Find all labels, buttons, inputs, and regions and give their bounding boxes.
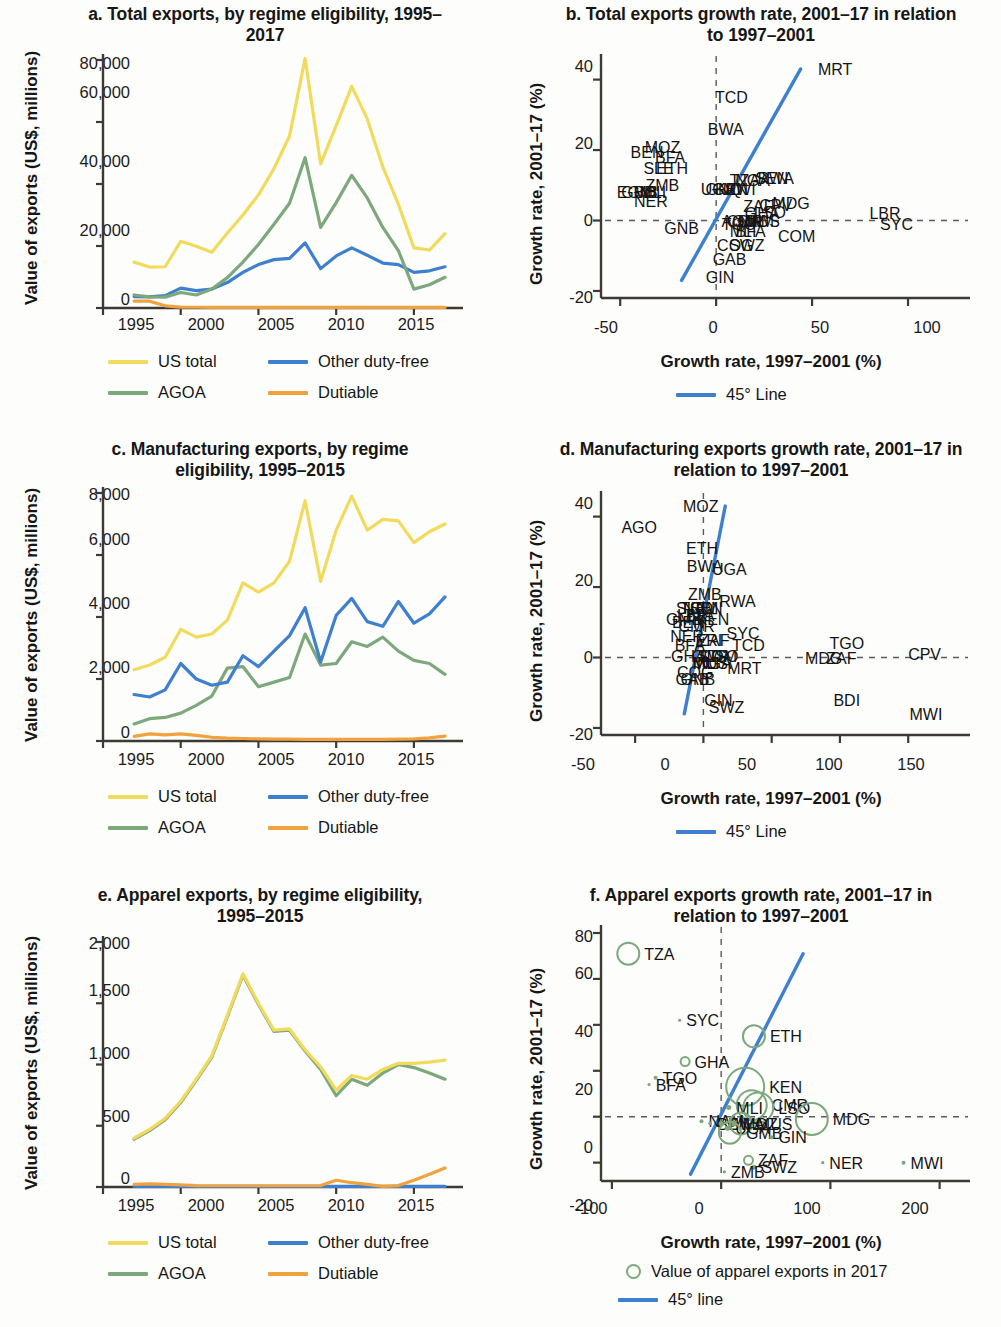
scatter-point-label: BFA bbox=[656, 1077, 687, 1094]
series-line bbox=[134, 158, 445, 298]
scatter-point-label: NER bbox=[634, 193, 668, 210]
bubble-marker bbox=[681, 1057, 690, 1066]
scatter-point-label: COM bbox=[778, 228, 815, 245]
legend-item-agoa: AGOA bbox=[108, 383, 268, 402]
legend-item-45-line-f: 45° line bbox=[618, 1290, 887, 1309]
bubble-marker bbox=[902, 1161, 906, 1165]
agoa-swatch bbox=[108, 391, 148, 395]
scatter-point-label: SYC bbox=[686, 1012, 719, 1029]
panel-b: b. Total exports growth rate, 2001–17 in… bbox=[501, 0, 1001, 430]
panel-a-legend: US total Other duty-free AGOA Dutiable bbox=[108, 352, 429, 402]
scatter-point-label: AGO bbox=[621, 519, 657, 536]
scatter-point-label: ZMB bbox=[731, 1164, 765, 1181]
scatter-point-label: UGA bbox=[712, 561, 747, 578]
scatter-point-label: ETH bbox=[770, 1028, 802, 1045]
panel-e-plot bbox=[0, 885, 500, 1215]
bubble-marker bbox=[726, 1105, 731, 1110]
legend-item-us-total-e: US total bbox=[108, 1233, 268, 1252]
bubble-marker bbox=[708, 1122, 712, 1126]
us-total-swatch bbox=[108, 360, 148, 364]
scatter-point-label: ZAF bbox=[826, 650, 856, 667]
series-line bbox=[134, 496, 445, 670]
dutiable-swatch bbox=[268, 391, 308, 395]
legend-item-other-duty-free-e: Other duty-free bbox=[268, 1233, 429, 1252]
legend-item-45-line-d: 45° Line bbox=[676, 822, 787, 841]
other-duty-free-swatch bbox=[268, 360, 308, 364]
bubble-marker bbox=[617, 943, 639, 965]
scatter-point-label: GMB bbox=[746, 1125, 782, 1142]
series-line bbox=[134, 734, 445, 740]
bubble-marker bbox=[725, 1126, 730, 1131]
legend-label-bubble-f: Value of apparel exports in 2017 bbox=[651, 1262, 887, 1281]
legend-label-agoa: AGOA bbox=[158, 383, 206, 402]
series-line bbox=[134, 301, 445, 307]
panel-c-plot bbox=[0, 437, 500, 767]
legend-item-us-total: US total bbox=[108, 352, 268, 371]
agoa-swatch-c bbox=[108, 826, 148, 830]
panel-f-plot: TZASYCETHGHATGOBFAKENCMRLSOMLIMDGNAMBENB… bbox=[501, 885, 1001, 1215]
series-line bbox=[134, 975, 445, 1139]
legend-item-dutiable-c: Dutiable bbox=[268, 818, 379, 837]
legend-label-other-duty-free-c: Other duty-free bbox=[318, 787, 429, 806]
scatter-point-label: MWI bbox=[910, 706, 943, 723]
panel-a-plot bbox=[0, 0, 500, 330]
series-line bbox=[134, 1168, 445, 1186]
figure-root: a. Total exports, by regime eligibility,… bbox=[0, 0, 1001, 1327]
panel-f-xlabel: Growth rate, 1997–2001 (%) bbox=[571, 1233, 971, 1253]
legend-item-other-duty-free: Other duty-free bbox=[268, 352, 429, 371]
scatter-point-label: MRT bbox=[818, 61, 853, 78]
legend-label-us-total-e: US total bbox=[158, 1233, 217, 1252]
legend-label-agoa-e: AGOA bbox=[158, 1264, 206, 1283]
legend-item-agoa-e: AGOA bbox=[108, 1264, 268, 1283]
dutiable-swatch-c bbox=[268, 826, 308, 830]
bubble-marker bbox=[647, 1083, 650, 1086]
scatter-point-label: LSO bbox=[778, 1100, 810, 1117]
legend-item-us-total-c: US total bbox=[108, 787, 268, 806]
scatter-point-label: SWZ bbox=[709, 699, 745, 716]
legend-label-45-line-d: 45° Line bbox=[726, 822, 787, 841]
panel-d: d. Manufacturing exports growth rate, 20… bbox=[501, 437, 1001, 867]
scatter-point-label: MOZ bbox=[683, 498, 719, 515]
other-duty-free-swatch-c bbox=[268, 795, 308, 799]
line-45-swatch-d bbox=[676, 830, 716, 834]
bubble-marker bbox=[678, 1019, 681, 1022]
scatter-point-label: SWZ bbox=[761, 1159, 797, 1176]
scatter-point-label: GIN bbox=[778, 1129, 806, 1146]
legend-label-other-duty-free-e: Other duty-free bbox=[318, 1233, 429, 1252]
scatter-point-label: BDI bbox=[833, 692, 860, 709]
scatter-point-label: MRT bbox=[727, 660, 762, 677]
scatter-point-label: GAB bbox=[713, 251, 747, 268]
us-total-swatch-e bbox=[108, 1241, 148, 1245]
series-line bbox=[134, 597, 445, 697]
legend-label-45-line-f: 45° line bbox=[668, 1290, 723, 1309]
bubble-swatch-icon bbox=[626, 1264, 641, 1279]
scatter-point-label: BWA bbox=[708, 121, 744, 138]
scatter-point-label: MWI bbox=[723, 181, 756, 198]
legend-item-other-duty-free-c: Other duty-free bbox=[268, 787, 429, 806]
legend-label-45-line-b: 45° Line bbox=[726, 385, 787, 404]
bubble-marker bbox=[769, 1135, 773, 1139]
scatter-point-label: CPV bbox=[908, 646, 941, 663]
series-line bbox=[134, 974, 445, 1138]
legend-item-bubble-f: Value of apparel exports in 2017 bbox=[626, 1262, 887, 1281]
panel-e-legend: US total Other duty-free AGOA Dutiable bbox=[108, 1233, 429, 1283]
series-line bbox=[134, 634, 445, 724]
scatter-point-label: GHA bbox=[695, 1054, 730, 1071]
scatter-point-label: GIN bbox=[706, 269, 734, 286]
panel-f: f. Apparel exports growth rate, 2001–17 … bbox=[501, 885, 1001, 1327]
us-total-swatch-c bbox=[108, 795, 148, 799]
legend-label-agoa-c: AGOA bbox=[158, 818, 206, 837]
legend-label-other-duty-free: Other duty-free bbox=[318, 352, 429, 371]
bubble-marker bbox=[821, 1161, 824, 1164]
legend-label-dutiable-e: Dutiable bbox=[318, 1264, 379, 1283]
panel-e: e. Apparel exports, by regime eligibilit… bbox=[0, 885, 500, 1327]
panel-b-plot: MRTTCDBWAMOZBENBFASLEETHRWASENTZANGAZMBU… bbox=[501, 0, 1001, 330]
dutiable-swatch-e bbox=[268, 1272, 308, 1276]
panel-d-legend: 45° Line bbox=[676, 822, 787, 841]
scatter-point-label: KEN bbox=[769, 1079, 802, 1096]
bubble-marker bbox=[699, 1119, 703, 1123]
other-duty-free-swatch-e bbox=[268, 1241, 308, 1245]
scatter-point-label: NER bbox=[829, 1155, 863, 1172]
scatter-point-label: MDG bbox=[833, 1111, 870, 1128]
agoa-swatch-e bbox=[108, 1272, 148, 1276]
